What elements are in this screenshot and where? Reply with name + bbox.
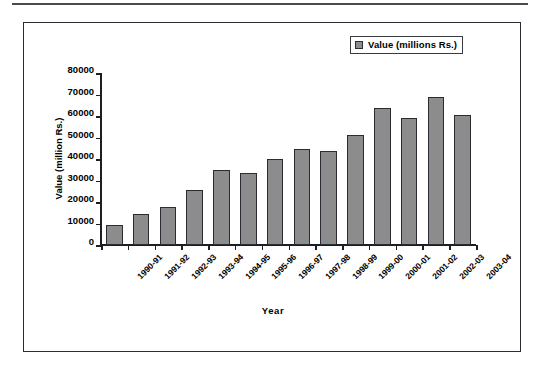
chart-frame: Value (millions Rs.) Value (million Rs.)… <box>23 22 521 352</box>
y-axis-tick-labels: 8000070000600005000040000300002000010000… <box>46 70 94 242</box>
x-tick-label: 1991-92 <box>162 252 191 281</box>
y-tick-label: 40000 <box>46 151 94 161</box>
bar <box>320 151 337 245</box>
bar <box>213 170 230 245</box>
y-tick-label: 80000 <box>46 65 94 75</box>
x-tick-label: 1995-96 <box>269 252 298 281</box>
x-tick-label: 2001-02 <box>430 252 459 281</box>
x-tick-mark <box>155 245 157 250</box>
x-tick-label: 1997-98 <box>323 252 352 281</box>
x-tick-mark <box>208 245 210 250</box>
bar <box>267 159 284 245</box>
y-tick-label: 20000 <box>46 194 94 204</box>
x-axis-tick-labels: 1990-911991-921992-931993-941994-951995-… <box>101 252 476 312</box>
top-horizontal-rule <box>12 3 528 5</box>
x-tick-label: 1993-94 <box>216 252 245 281</box>
legend-swatch-icon <box>355 41 363 49</box>
legend-label: Value (millions Rs.) <box>368 39 457 50</box>
x-tick-mark <box>128 245 130 250</box>
plot-area: Value (millions Rs.) Value (million Rs.)… <box>24 23 522 353</box>
bar <box>374 108 391 245</box>
x-tick-label: 1992-93 <box>189 252 218 281</box>
x-tick-label: 1990-91 <box>136 252 165 281</box>
x-tick-mark <box>342 245 344 250</box>
bar <box>454 115 471 246</box>
figure-page: Value (millions Rs.) Value (million Rs.)… <box>0 0 537 379</box>
y-tick-label: 0 <box>46 237 94 247</box>
x-tick-mark <box>396 245 398 250</box>
x-tick-mark <box>422 245 424 250</box>
x-tick-label: 2000-01 <box>403 252 432 281</box>
x-tick-label: 1996-97 <box>296 252 325 281</box>
x-tick-mark <box>449 245 451 250</box>
x-tick-mark <box>369 245 371 250</box>
x-tick-label: 2002-03 <box>457 252 486 281</box>
bar <box>160 207 177 245</box>
bar <box>240 173 257 245</box>
x-tick-label: 1998-99 <box>350 252 379 281</box>
x-axis-title: Year <box>24 305 522 316</box>
x-tick-mark <box>476 245 478 250</box>
x-tick-mark <box>262 245 264 250</box>
chart-legend: Value (millions Rs.) <box>350 36 463 54</box>
bar <box>133 214 150 245</box>
bar <box>106 225 123 245</box>
bar <box>294 149 311 245</box>
y-tick-label: 30000 <box>46 173 94 183</box>
x-tick-mark <box>101 245 103 250</box>
x-tick-mark <box>235 245 237 250</box>
y-tick-label: 70000 <box>46 87 94 97</box>
x-tick-mark <box>315 245 317 250</box>
y-tick-label: 50000 <box>46 130 94 140</box>
x-tick-mark <box>289 245 291 250</box>
bar <box>428 97 445 245</box>
y-tick-label: 60000 <box>46 108 94 118</box>
y-tick-label: 10000 <box>46 216 94 226</box>
bar-series <box>101 73 476 245</box>
x-tick-label: 1999-00 <box>377 252 406 281</box>
x-tick-label: 2003-04 <box>484 252 513 281</box>
bar <box>401 118 418 245</box>
x-tick-label: 1994-95 <box>243 252 272 281</box>
x-tick-mark <box>181 245 183 250</box>
bar <box>186 190 203 245</box>
bar <box>347 135 364 245</box>
